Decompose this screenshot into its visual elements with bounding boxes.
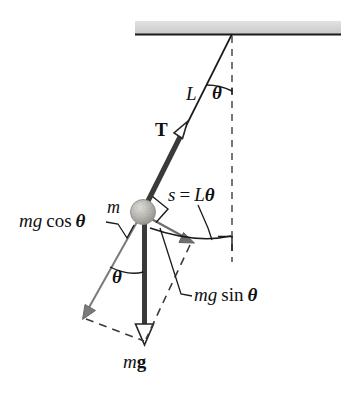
pendulum-bob — [131, 200, 156, 225]
label-theta-components: θ — [112, 267, 122, 286]
weight-vector-arrow — [136, 213, 154, 345]
label-length-L: L — [186, 84, 197, 103]
label-weight-mg: mg — [123, 352, 146, 371]
label-mg-sin-theta: mgsinθ — [194, 285, 257, 304]
mgsin-theta-symbol: θ — [247, 284, 257, 305]
arc-L-symbol: L — [194, 184, 205, 205]
label-mass-m: m — [107, 198, 120, 216]
weight-m-symbol: m — [123, 351, 137, 372]
mgsin-mg-symbol: mg — [194, 284, 217, 305]
ceiling-support — [135, 21, 341, 35]
arc-equals-sign: = — [179, 184, 190, 205]
mgcos-theta-symbol: θ — [76, 210, 86, 231]
mgcos-function-name: cos — [46, 210, 71, 231]
label-theta-pivot: θ — [212, 83, 222, 102]
mgsin-function-name: sin — [221, 284, 243, 305]
arc-label-leader-line — [198, 205, 212, 240]
mgcos-mg-symbol: mg — [19, 210, 42, 231]
label-mg-cos-theta: mgcosθ — [19, 211, 85, 230]
arc-s-symbol: s — [168, 184, 175, 205]
weight-g-symbol: g — [137, 351, 147, 372]
label-tension-T: T — [155, 120, 168, 139]
label-arc-length: s=Lθ — [168, 185, 215, 204]
pendulum-diagram: L θ T s=Lθ m mgcosθ θ mgsinθ mg — [0, 0, 341, 393]
arc-theta-symbol: θ — [205, 184, 215, 205]
